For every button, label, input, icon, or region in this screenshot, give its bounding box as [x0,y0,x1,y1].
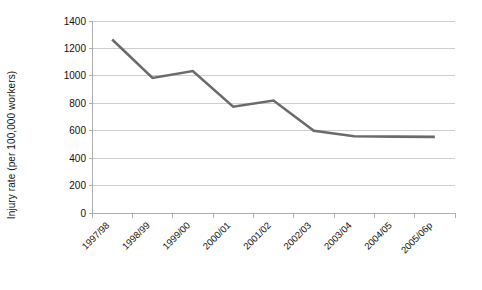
y-tick-label: 400 [69,153,86,164]
x-tick-label: 2001/02 [241,220,273,252]
y-axis-ticks [89,21,93,213]
y-tick-label: 200 [69,180,86,191]
x-tick-label: 2004/05 [362,220,394,252]
y-tick-label: 800 [69,98,86,109]
data-series-line [112,40,435,137]
chart-container: Injury rate (per 100,000 workers) 1400 1… [0,0,482,290]
x-axis-tick-labels: 1997/98 1998/99 1999/00 2000/01 2001/02 … [79,220,434,256]
y-axis-tick-labels: 1400 1200 1000 800 600 400 200 0 [64,16,87,219]
x-tick-label: 2000/01 [200,220,232,252]
x-tick-label: 1999/00 [160,220,192,252]
x-tick-label: 2002/03 [281,220,313,252]
y-tick-label: 1400 [64,16,87,27]
x-tick-label: 1997/98 [79,220,111,252]
y-tick-label: 0 [80,208,86,219]
y-tick-label: 1000 [64,70,87,81]
y-tick-label: 600 [69,125,86,136]
x-axis-ticks [92,213,455,218]
line-chart-plot: 1400 1200 1000 800 600 400 200 0 [0,0,482,290]
y-tick-label: 1200 [64,43,87,54]
gridlines [92,21,455,186]
x-tick-label: 2005/06p [399,220,435,256]
x-tick-label: 1998/99 [120,220,152,252]
x-tick-label: 2003/04 [322,220,354,252]
